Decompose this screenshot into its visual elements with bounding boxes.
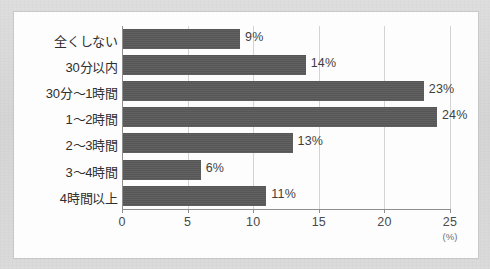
scanned-page: 全くしない30分以内30分～1時間1～2時間2～3時間3～4時間4時間以上 9%… [0, 0, 490, 269]
category-axis-labels: 全くしない30分以内30分～1時間1～2時間2～3時間3～4時間4時間以上 [14, 26, 118, 209]
category-label-2: 30分～1時間 [14, 83, 118, 102]
bar-row: 11% [122, 186, 450, 206]
x-tick-label-0: 0 [118, 215, 125, 229]
category-label-6: 4時間以上 [14, 188, 118, 207]
bar-row: 13% [122, 133, 450, 153]
x-tick-label-10: 10 [246, 215, 260, 229]
x-tick-label-20: 20 [377, 215, 391, 229]
x-axis-unit-label: (%) [443, 231, 458, 242]
x-tick-20 [384, 209, 385, 213]
x-tick-label-15: 15 [312, 215, 326, 229]
bar-value-label: 11% [271, 187, 296, 201]
bar-3～4時間 [122, 160, 201, 180]
bar-4時間以上 [122, 186, 266, 206]
bar-30分以内 [122, 55, 306, 75]
plot-area: 9%14%23%24%13%6%11% [122, 26, 450, 209]
bar-value-label: 24% [442, 108, 468, 122]
bar-2～3時間 [122, 133, 293, 153]
x-tick-25 [450, 209, 451, 213]
x-tick-5 [188, 209, 189, 213]
x-axis-line [122, 209, 451, 210]
x-tick-label-25: 25 [443, 215, 457, 229]
bar-value-label: 9% [245, 30, 263, 44]
bar-value-label: 6% [206, 161, 224, 175]
bar-value-label: 14% [311, 56, 337, 70]
bar-row: 14% [122, 55, 450, 75]
bar-value-label: 23% [429, 82, 455, 96]
category-label-0: 全くしない [14, 31, 118, 50]
x-tick-10 [253, 209, 254, 213]
category-label-3: 1～2時間 [14, 109, 118, 128]
bar-row: 6% [122, 160, 450, 180]
category-label-5: 3～4時間 [14, 162, 118, 181]
chart-card: 全くしない30分以内30分～1時間1～2時間2～3時間3～4時間4時間以上 9%… [14, 12, 478, 258]
y-axis-line [122, 26, 123, 210]
category-label-4: 2～3時間 [14, 135, 118, 154]
bar-30分～1時間 [122, 81, 424, 101]
x-tick-0 [122, 209, 123, 213]
category-label-1: 30分以内 [14, 57, 118, 76]
x-tick-label-5: 5 [184, 215, 191, 229]
bar-全くしない [122, 29, 240, 49]
bar-row: 24% [122, 107, 450, 127]
bar-row: 23% [122, 81, 450, 101]
bar-row: 9% [122, 29, 450, 49]
x-tick-15 [319, 209, 320, 213]
bar-1～2時間 [122, 107, 437, 127]
bar-value-label: 13% [298, 134, 324, 148]
